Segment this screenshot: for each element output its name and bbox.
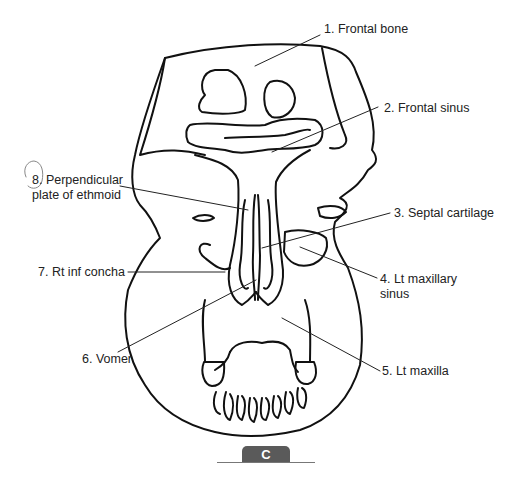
incisors (214, 388, 306, 422)
label-8-perpendicular-plate: 8. Perpendicular plate of ethmoid (32, 173, 123, 203)
left-orbit (264, 81, 295, 118)
nasal-septum (253, 195, 255, 300)
label-2-frontal-sinus: 2. Frontal sinus (384, 101, 469, 116)
label-4-lt-maxillary-sinus: 4. Lt maxillary sinus (380, 272, 457, 302)
left-molar (296, 362, 317, 384)
right-maxilla-wall (203, 300, 205, 362)
label-4-line1: 4. Lt maxillary (380, 272, 457, 287)
label-8-line2: plate of ethmoid (32, 188, 123, 203)
right-orbit (199, 70, 246, 114)
frontal-sinus (186, 119, 322, 153)
palate (230, 342, 298, 372)
label-5-lt-maxilla: 5. Lt maxilla (382, 364, 449, 379)
panel-letter-badge: C (242, 446, 290, 462)
right-middle-concha (240, 200, 248, 289)
skull-outline (125, 44, 376, 436)
left-middle-concha (264, 200, 272, 289)
label-6-vomer: 6. Vomer (82, 352, 132, 367)
right-inferior-concha (200, 244, 230, 270)
label-3-septal-cartilage: 3. Septal cartilage (394, 206, 494, 221)
label-8-line1: 8. Perpendicular (32, 173, 123, 188)
panel-underline (217, 462, 315, 463)
skull-line-drawing (0, 0, 511, 481)
label-1-frontal-bone: 1. Frontal bone (324, 22, 408, 37)
label-7-rt-inf-concha: 7. Rt inf concha (38, 265, 125, 280)
label-4-line2: sinus (380, 287, 457, 302)
anatomy-diagram: 1. Frontal bone 2. Frontal sinus 3. Sept… (0, 0, 511, 481)
